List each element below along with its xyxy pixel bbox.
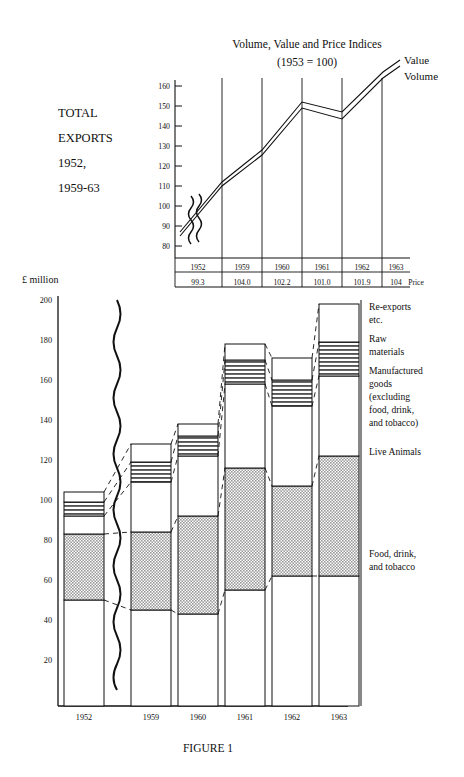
bottom-x-label-1963: 1963 xyxy=(331,713,347,722)
bottom-chart: £ million 200 180 160 140 120 100 80 60 … xyxy=(22,274,423,722)
legend-manufactured-line-4: food, drink, xyxy=(369,404,414,415)
table-price-1962: 101.9 xyxy=(353,278,370,287)
bottom-chart-legend: Re-exports etc. Raw materials Manufactur… xyxy=(369,301,423,572)
bar-1960 xyxy=(178,424,218,706)
bar-1963 xyxy=(319,304,359,706)
legend-re-exports-line-2: etc. xyxy=(369,314,383,325)
bar-1961 xyxy=(225,344,265,706)
bottom-chart-y-unit: £ million xyxy=(22,274,58,285)
legend-item-re-exports: Re-exports etc. xyxy=(369,301,411,325)
figure-caption: FIGURE 1 xyxy=(183,742,233,754)
table-price-1952: 99.3 xyxy=(191,278,204,287)
table-row-label-price: Price xyxy=(408,278,424,287)
top-chart-title-line1: Volume, Value and Price Indices xyxy=(232,38,382,51)
top-y-tick-80: 80 xyxy=(162,242,170,251)
bottom-x-label-1952: 1952 xyxy=(76,713,92,722)
top-y-tick-120: 120 xyxy=(158,162,170,171)
side-label-total-exports: TOTAL EXPORTS 1952, 1959-63 xyxy=(58,106,113,195)
legend-manufactured-line-5: and tobacco) xyxy=(369,417,418,429)
legend-manufactured-line-1: Manufactured xyxy=(369,365,423,376)
bottom-y-tick-80: 80 xyxy=(44,536,52,545)
side-label-line-2: EXPORTS xyxy=(58,131,113,145)
bottom-y-tick-180: 180 xyxy=(40,336,52,345)
legend-item-live-animals: Live Animals xyxy=(369,446,421,457)
table-price-1960: 102.2 xyxy=(273,278,290,287)
legend-live-animals-line-1: Live Animals xyxy=(369,446,421,457)
bottom-y-tick-40: 40 xyxy=(44,616,52,625)
table-year-1959: 1959 xyxy=(234,263,249,272)
bottom-chart-axis-break xyxy=(114,300,121,690)
legend-food-line-1: Food, drink, xyxy=(369,548,416,559)
bottom-chart-y-ticks: 200 180 160 140 120 100 80 60 40 20 xyxy=(40,296,52,665)
bottom-x-label-1960: 1960 xyxy=(190,713,206,722)
top-chart-line-volume xyxy=(180,66,400,236)
side-label-line-3: 1952, xyxy=(58,156,86,170)
legend-re-exports-line-1: Re-exports xyxy=(369,301,411,312)
bottom-y-tick-100: 100 xyxy=(40,496,52,505)
series-label-value: Value xyxy=(404,54,429,66)
table-year-1952: 1952 xyxy=(190,263,205,272)
top-y-tick-100: 100 xyxy=(158,202,170,211)
bottom-y-tick-20: 20 xyxy=(44,656,52,665)
bottom-x-label-1961: 1961 xyxy=(237,713,253,722)
figure-1: Volume, Value and Price Indices (1953 = … xyxy=(0,0,464,777)
bottom-y-tick-140: 140 xyxy=(40,416,52,425)
top-chart: Volume, Value and Price Indices (1953 = … xyxy=(158,38,438,287)
side-label-line-1: TOTAL xyxy=(58,106,98,120)
top-chart-y-ticks: 160 150 140 130 120 110 100 90 80 xyxy=(158,82,182,251)
legend-manufactured-line-2: goods xyxy=(369,378,392,389)
bottom-y-tick-160: 160 xyxy=(40,376,52,385)
bar-1959 xyxy=(131,444,171,706)
table-price-1963: 104 xyxy=(390,278,402,287)
top-chart-line-value xyxy=(180,60,400,232)
top-y-tick-150: 150 xyxy=(158,102,170,111)
table-year-1961: 1961 xyxy=(314,263,329,272)
figure-svg: Volume, Value and Price Indices (1953 = … xyxy=(0,0,464,777)
legend-raw-materials-line-1: Raw xyxy=(369,333,387,344)
table-price-1961: 101.0 xyxy=(313,278,330,287)
legend-item-food-drink-tobacco: Food, drink, and tobacco xyxy=(369,548,416,572)
table-price-1959: 104.0 xyxy=(233,278,250,287)
bar-1952 xyxy=(64,492,104,706)
legend-item-raw-materials: Raw materials xyxy=(369,333,404,357)
bottom-y-tick-120: 120 xyxy=(40,456,52,465)
top-y-tick-90: 90 xyxy=(162,222,170,231)
top-chart-table: 1952 1959 1960 1961 1962 1963 99.3 104.0… xyxy=(175,258,424,287)
top-y-tick-140: 140 xyxy=(158,122,170,131)
bottom-y-tick-60: 60 xyxy=(44,576,52,585)
table-year-1962: 1962 xyxy=(354,263,369,272)
top-y-tick-110: 110 xyxy=(159,182,171,191)
legend-manufactured-line-3: (excluding xyxy=(369,391,410,403)
top-y-tick-130: 130 xyxy=(158,142,170,151)
top-chart-title-line2: (1953 = 100) xyxy=(277,56,337,69)
bottom-x-label-1962: 1962 xyxy=(284,713,300,722)
bottom-y-tick-200: 200 xyxy=(40,296,52,305)
table-year-1963: 1963 xyxy=(388,263,403,272)
legend-item-manufactured-goods: Manufactured goods (excluding food, drin… xyxy=(369,365,423,429)
bottom-x-label-1959: 1959 xyxy=(143,713,159,722)
bottom-chart-x-labels: 1952 1959 1960 1961 1962 1963 xyxy=(76,713,347,722)
table-year-1960: 1960 xyxy=(274,263,289,272)
legend-raw-materials-line-2: materials xyxy=(369,346,404,357)
series-label-volume: Volume xyxy=(404,70,438,82)
legend-food-line-2: and tobacco xyxy=(369,561,415,572)
top-y-tick-160: 160 xyxy=(158,82,170,91)
side-label-line-4: 1959-63 xyxy=(58,181,100,195)
bar-1962 xyxy=(272,358,312,706)
